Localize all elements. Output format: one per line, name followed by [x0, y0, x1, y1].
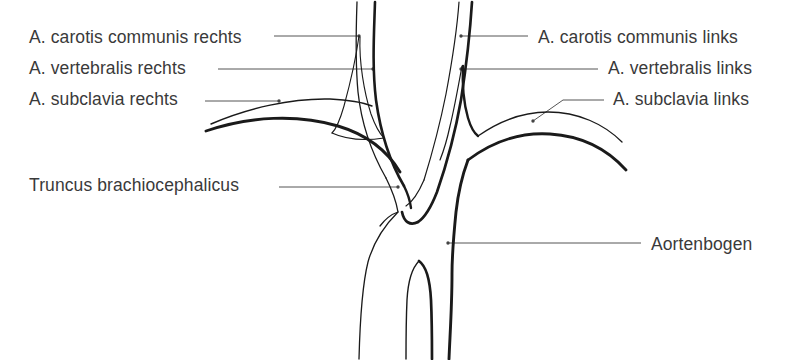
carotis-rechts-wall-outer	[356, 2, 386, 178]
dot-subclavia-rechts	[277, 99, 280, 102]
subclavia-links-border-inferior	[468, 134, 626, 170]
leader-subclavia-links-seg1	[533, 100, 563, 121]
label-a-vertebralis-rechts: A. vertebralis rechts	[29, 58, 186, 79]
arch-inner-vessel-right-wall	[406, 261, 419, 359]
leader-endpoint-dots	[277, 34, 534, 244]
aortenbogen-outer-wall	[449, 160, 468, 359]
vessel-outlines	[206, 2, 626, 359]
label-a-vertebralis-links: A. vertebralis links	[608, 58, 752, 79]
dot-subclavia-links	[531, 119, 534, 122]
label-a-carotis-communis-links: A. carotis communis links	[538, 27, 738, 48]
subclavia-rechts-border-superior	[211, 99, 372, 124]
label-aortenbogen: Aortenbogen	[651, 234, 752, 255]
carotis-links-ostium-inner	[406, 180, 424, 206]
dot-truncus	[396, 185, 399, 188]
arch-inner-vessel-left-wall	[419, 261, 432, 359]
dot-carotis-links	[459, 34, 462, 37]
subclavia-links-border-superior	[478, 112, 622, 142]
truncus-wall-left	[359, 178, 398, 359]
label-a-subclavia-rechts: A. subclavia rechts	[29, 89, 178, 110]
carotis-links-wall-right	[418, 2, 472, 222]
vertebralis-rechts-wall-left	[332, 36, 359, 133]
carotis-links-ostium	[402, 212, 418, 224]
dot-aortenbogen	[446, 241, 449, 244]
anatomy-figure-page: A. carotis communis rechts A. vertebrali…	[0, 0, 785, 360]
label-truncus-brachiocephalicus: Truncus brachiocephalicus	[29, 175, 239, 196]
label-a-subclavia-links: A. subclavia links	[613, 89, 749, 110]
carotis-links-wall-left	[424, 2, 459, 180]
label-a-carotis-communis-rechts: A. carotis communis rechts	[29, 27, 242, 48]
